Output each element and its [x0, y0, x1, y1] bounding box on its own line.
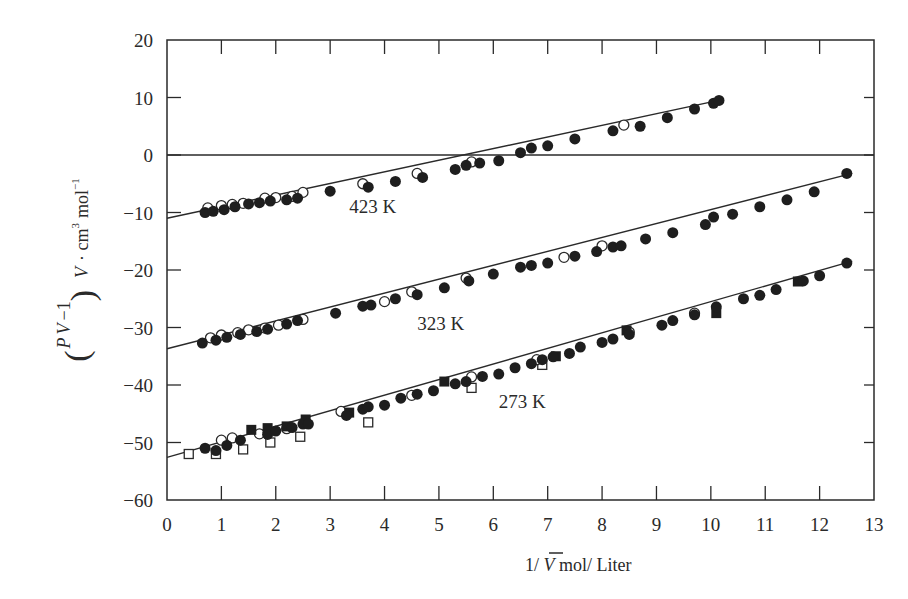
x-tick-label: 2 [271, 514, 281, 535]
series-label: 323 K [417, 313, 464, 334]
series-label: 273 K [499, 391, 546, 412]
svg-text:(PV−1)V· cm3mol−1: (PV−1)V· cm3mol−1 [54, 178, 102, 362]
y-tick-label: −10 [123, 203, 153, 224]
x-tick-label: 3 [325, 514, 335, 535]
x-tick-label: 10 [701, 514, 720, 535]
y-tick-label: −20 [123, 260, 153, 281]
x-tick-label: 11 [756, 514, 774, 535]
x-tick-label: 1 [217, 514, 227, 535]
series-points [200, 95, 725, 218]
y-tick-label: 0 [144, 145, 154, 166]
x-tick-label: 9 [652, 514, 662, 535]
y-tick-label: 10 [134, 88, 153, 109]
series-label: 423 K [349, 196, 396, 217]
x-tick-label: 0 [162, 514, 172, 535]
x-tick-label: 6 [489, 514, 499, 535]
chart-canvas: 01234567891011121320100−10−20−30−40−50−6… [0, 0, 908, 599]
x-tick-label: 12 [810, 514, 829, 535]
x-tick-label: 13 [865, 514, 884, 535]
x-tick-label: 5 [434, 514, 444, 535]
x-axis-title: 1/ V mol/ Liter [525, 553, 632, 575]
y-tick-label: −60 [123, 490, 153, 511]
series-points [184, 258, 852, 459]
y-tick-label: −30 [123, 318, 153, 339]
y-tick-label: −40 [123, 375, 153, 396]
x-tick-label: 4 [380, 514, 390, 535]
svg-text:1/ V mol/ Liter: 1/ V mol/ Liter [525, 555, 632, 575]
x-tick-label: 7 [543, 514, 553, 535]
x-tick-label: 8 [597, 514, 607, 535]
axes: 01234567891011121320100−10−20−30−40−50−6… [123, 30, 883, 535]
y-tick-label: 20 [134, 30, 153, 51]
y-tick-label: −50 [123, 433, 153, 454]
y-axis-title: (PV−1)V· cm3mol−1 [54, 178, 102, 362]
